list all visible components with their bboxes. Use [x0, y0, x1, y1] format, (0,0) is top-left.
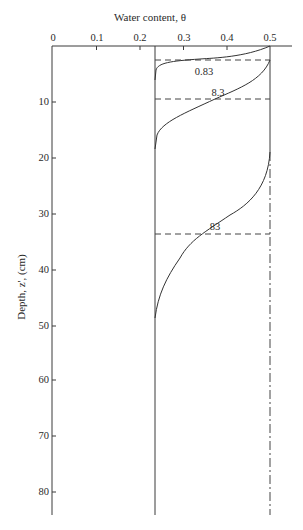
y-tick-label: 70 [39, 430, 50, 441]
curve-label-8.3: 8.3 [211, 87, 224, 98]
y-tick-label: 50 [39, 320, 50, 331]
y-axis: 10 20 30 40 50 60 70 80 Depth, z', (cm) [15, 46, 56, 515]
x-axis: 0 0.1 0.2 0.3 0.4 0.5 [50, 32, 292, 50]
x-tick-label: 0.3 [177, 32, 190, 43]
y-tick-label: 30 [39, 208, 50, 219]
x-tick-label: 0.1 [90, 32, 103, 43]
y-tick-label: 80 [39, 486, 50, 497]
x-tick-label: 0.4 [220, 32, 234, 43]
x-tick-label: 0.2 [133, 32, 146, 43]
chart-figure: Water content, θ 0 0.1 0.2 0.3 0.4 0.5 1… [0, 0, 303, 530]
y-tick-label: 10 [39, 96, 50, 107]
y-tick-label: 60 [39, 374, 50, 385]
curve-label-0.83: 0.83 [195, 66, 213, 77]
curve-83 [155, 152, 270, 318]
chart-title: Water content, θ [114, 11, 186, 23]
curve-label-83: 83 [210, 221, 221, 232]
x-tick-label: 0.5 [263, 32, 276, 43]
x-tick-label: 0 [50, 32, 55, 43]
y-tick-label: 20 [39, 152, 50, 163]
y-tick-label: 40 [39, 264, 50, 275]
y-axis-label: Depth, z', (cm) [15, 254, 28, 320]
